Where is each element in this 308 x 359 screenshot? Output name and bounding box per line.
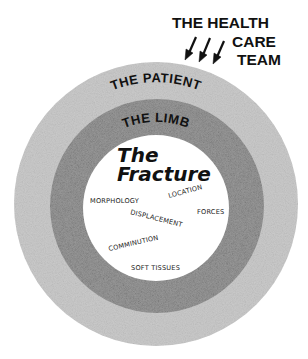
factor-soft-tissues: SOFT TISSUES bbox=[131, 264, 180, 272]
factor-forces: FORCES bbox=[197, 208, 224, 216]
arrow-down-icon bbox=[185, 37, 196, 60]
arrow-down-icon bbox=[199, 38, 210, 62]
team-label-line1: THE HEALTH bbox=[172, 14, 269, 31]
arrow-down-icon bbox=[213, 41, 224, 64]
fracture-care-diagram: THE PATIENT THE LIMB The Fracture MORPHO… bbox=[0, 0, 308, 359]
team-label-line3: TEAM bbox=[237, 51, 281, 68]
team-label-line2: CARE bbox=[232, 33, 276, 50]
factor-morphology: MORPHOLOGY bbox=[90, 197, 140, 205]
fracture-title-line2: Fracture bbox=[117, 162, 211, 186]
